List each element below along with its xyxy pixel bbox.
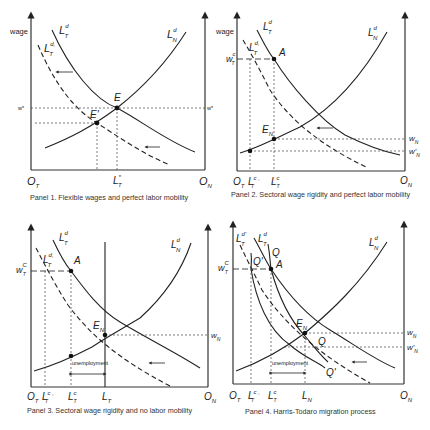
svg-text:ON: ON	[204, 391, 217, 404]
label-Q-lower: Q	[318, 336, 326, 347]
svg-text:wN: wN	[409, 134, 419, 145]
unemployment-label: unemployment	[72, 360, 109, 366]
point-EN	[103, 333, 108, 338]
point-shifted-equilibrium	[69, 354, 74, 359]
label-E-prime: E'	[90, 109, 100, 120]
svg-text:LdN: LdN	[369, 235, 379, 251]
point-A	[269, 267, 274, 272]
svg-text:Lc ,T: Lc ,T	[42, 390, 54, 404]
equilibrium-point-E	[115, 106, 120, 111]
point-EN	[272, 137, 277, 142]
svg-text:LdT: LdT	[59, 230, 69, 246]
svg-text:LdT: LdT	[59, 23, 69, 39]
label-Q-prime-lower: Q'	[326, 367, 337, 378]
panel-1: wage LdT Ld,T LdN E E' w* w* OT L*T ON P…	[9, 15, 214, 202]
svg-text:EN: EN	[93, 320, 105, 333]
label-E: E	[114, 92, 121, 103]
panel-3-caption: Panel 3. Sectoral wage rigidity and no l…	[27, 406, 192, 415]
svg-text:wCT: wCT	[16, 262, 28, 277]
svg-text:wN: wN	[211, 331, 221, 342]
svg-text:ON: ON	[400, 175, 413, 188]
svg-text:EN: EN	[296, 318, 308, 331]
svg-text:L*T: L*T	[113, 174, 123, 188]
label-A: A	[73, 255, 81, 266]
svg-text:LdT: LdT	[258, 231, 268, 247]
svg-text:wcT: wcT	[226, 51, 236, 66]
nontraded-labor-demand-curve	[34, 243, 191, 371]
unemployment-label: unemployment	[272, 360, 309, 366]
svg-text:OT: OT	[27, 391, 40, 404]
svg-text:LdN: LdN	[368, 25, 378, 41]
svg-text:LdN: LdN	[167, 27, 177, 43]
svg-text:LdT: LdT	[263, 19, 273, 35]
svg-text:OT: OT	[27, 175, 41, 189]
svg-text:OT: OT	[233, 176, 246, 189]
two-sector-labor-market-diagram: wage LdT Ld,T LdN E E' w* w* OT L*T ON P…	[0, 0, 430, 430]
point-EN	[303, 331, 308, 336]
label-w-star-left: w*	[17, 105, 25, 111]
svg-text:Ld,T: Ld,T	[249, 40, 260, 56]
svg-text:Lc ,T: Lc ,T	[248, 389, 260, 403]
svg-text:EN: EN	[262, 124, 274, 137]
label-w-star-right: w*	[206, 105, 214, 111]
svg-text:ON: ON	[199, 175, 213, 189]
svg-text:wN: wN	[407, 328, 417, 339]
panel-1-caption: Panel 1. Flexible wages and perfect labo…	[30, 193, 189, 202]
panel-4: unemployment Ld'T LdT LdN Q Q' A EN Q Q'…	[218, 224, 418, 416]
svg-text:LcT: LcT	[68, 390, 78, 404]
svg-text:w'N: w'N	[407, 343, 418, 354]
panel-2-caption: Panel 2. Sectoral wage rigidity and perf…	[231, 190, 410, 199]
svg-text:LcT: LcT	[271, 175, 281, 189]
svg-text:Ld'T: Ld'T	[236, 231, 247, 247]
panel-3: unemployment LdT Ld,T LdN A EN wCT wN OT…	[16, 227, 221, 415]
svg-text:Ld,T: Ld,T	[43, 252, 54, 268]
svg-text:Ld,T: Ld,T	[44, 41, 55, 57]
svg-text:wCT: wCT	[218, 260, 230, 275]
svg-text:w'N: w'N	[409, 147, 420, 158]
panel-4-caption: Panel 4. Harris-Todaro migration process	[245, 407, 376, 416]
label-A: A	[275, 259, 283, 270]
point-shifted-equilibrium	[248, 149, 253, 154]
wage-axis-label: wage	[215, 27, 234, 36]
svg-text:LN: LN	[302, 390, 313, 403]
svg-text:LcT: LcT	[268, 389, 278, 403]
nontraded-labor-demand-curve	[45, 32, 186, 148]
svg-text:ON: ON	[400, 390, 413, 403]
label-Q-upper: Q	[272, 247, 280, 258]
svg-text:LdN: LdN	[171, 237, 181, 253]
label-A: A	[278, 47, 286, 58]
svg-text:OT: OT	[229, 390, 242, 403]
shifted-traded-labor-demand-curve	[243, 40, 368, 168]
traded-labor-demand-curve	[52, 30, 195, 152]
q-prime-isocurve-lower	[251, 253, 325, 368]
point-A	[272, 57, 277, 62]
wage-axis-label: wage	[9, 27, 28, 36]
svg-text:LT: LT	[102, 391, 113, 404]
equilibrium-point-E-prime	[95, 121, 100, 126]
svg-text:Lc ,T: Lc ,T	[248, 175, 260, 189]
label-Q-prime-upper: Q'	[253, 256, 264, 267]
point-A	[69, 269, 74, 274]
panel-2: wage LdT Ld,T LdN A EN wcT wN w'N OT Lc …	[215, 15, 420, 199]
